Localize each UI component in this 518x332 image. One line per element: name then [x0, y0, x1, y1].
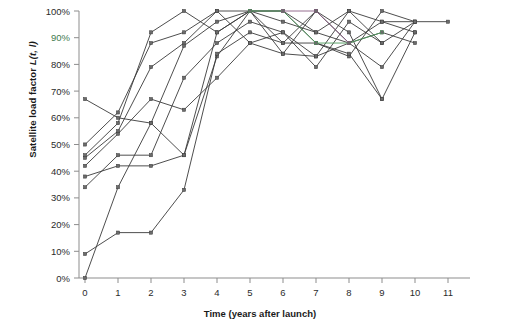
x-axis-tick-label: 2	[148, 287, 153, 298]
x-axis-tick-label: 3	[181, 287, 186, 298]
series-marker	[83, 276, 86, 279]
series-marker	[215, 41, 218, 44]
series-marker	[281, 20, 284, 23]
series-marker	[347, 31, 350, 34]
y-axis-title-symbol: L(t, l)	[27, 41, 38, 65]
series-marker	[83, 186, 86, 189]
series-marker	[281, 9, 284, 12]
series-marker	[413, 41, 416, 44]
x-axis-tick-label: 6	[280, 287, 285, 298]
series-marker	[182, 76, 185, 79]
series-line	[85, 22, 415, 188]
series-marker	[413, 20, 416, 23]
series-marker	[83, 164, 86, 167]
y-axis-tick-label: 10%	[51, 246, 71, 257]
series-marker	[83, 98, 86, 101]
series-marker	[116, 132, 119, 135]
x-axis-tick-label: 1	[115, 287, 120, 298]
series-marker	[116, 186, 119, 189]
series-marker	[182, 188, 185, 191]
series-marker	[380, 98, 383, 101]
series-marker	[380, 20, 383, 23]
x-axis-title: Time (years after launch)	[140, 308, 380, 319]
chart-container: 0%10%20%30%40%50%60%70%80%90%100% 012345…	[0, 0, 518, 332]
x-axis-tick-label: 0	[82, 287, 87, 298]
series-marker	[149, 231, 152, 234]
data-series	[83, 20, 416, 189]
y-axis: 0%10%20%30%40%50%60%70%80%90%100%	[46, 6, 79, 284]
series-marker	[149, 122, 152, 125]
series-marker	[314, 41, 317, 44]
series-marker	[116, 231, 119, 234]
x-axis-tick-label: 11	[443, 287, 453, 298]
data-series	[83, 9, 383, 255]
series-marker	[182, 108, 185, 111]
series-marker	[446, 20, 449, 23]
x-axis-tick-label: 4	[214, 287, 219, 298]
y-axis-tick-label: 100%	[46, 6, 71, 17]
series-marker	[281, 52, 284, 55]
series-marker	[83, 252, 86, 255]
series-marker	[149, 154, 152, 157]
y-axis-tick-label: 30%	[51, 192, 71, 203]
x-axis-tick-label: 7	[313, 287, 318, 298]
x-axis-tick-label: 9	[379, 287, 384, 298]
x-axis: 01234567891011	[79, 278, 470, 298]
series-marker	[248, 9, 251, 12]
series-marker	[182, 9, 185, 12]
series-marker	[215, 31, 218, 34]
series-marker	[248, 20, 251, 23]
series-marker	[380, 41, 383, 44]
series-marker	[149, 65, 152, 68]
series-marker	[248, 41, 251, 44]
data-series	[83, 31, 416, 168]
x-axis-tick-label: 10	[410, 287, 421, 298]
line-chart-plot: 0%10%20%30%40%50%60%70%80%90%100% 012345…	[0, 0, 518, 332]
series-marker	[281, 31, 284, 34]
series-marker	[116, 111, 119, 114]
series-marker	[314, 65, 317, 68]
series-marker	[314, 55, 317, 58]
series-line	[85, 11, 415, 177]
y-axis-tick-label: 40%	[51, 166, 71, 177]
data-series-group	[83, 9, 449, 279]
series-marker	[215, 20, 218, 23]
series-marker	[380, 31, 383, 34]
y-axis-title: Satellite load factor L(t, l)	[27, 0, 38, 200]
data-series	[83, 9, 416, 178]
series-marker	[413, 31, 416, 34]
series-marker	[182, 154, 185, 157]
y-axis-tick-label: 90%	[51, 32, 71, 43]
series-marker	[347, 41, 350, 44]
series-marker	[281, 41, 284, 44]
y-axis-tick-label: 50%	[51, 139, 71, 150]
series-marker	[182, 44, 185, 47]
y-axis-tick-label: 70%	[51, 86, 71, 97]
series-marker	[347, 20, 350, 23]
series-line	[283, 11, 349, 43]
series-marker	[83, 175, 86, 178]
y-axis-tick-label: 60%	[51, 112, 71, 123]
series-marker	[380, 65, 383, 68]
series-marker	[215, 76, 218, 79]
series-marker	[314, 31, 317, 34]
series-marker	[215, 9, 218, 12]
series-marker	[116, 116, 119, 119]
series-marker	[149, 164, 152, 167]
data-series	[83, 9, 449, 156]
series-marker	[116, 154, 119, 157]
y-axis-title-text: Satellite load factor	[27, 65, 38, 157]
x-axis-tick-label: 5	[247, 287, 252, 298]
series-marker	[116, 122, 119, 125]
series-marker	[149, 98, 152, 101]
series-marker	[149, 31, 152, 34]
series-marker	[83, 143, 86, 146]
series-marker	[380, 9, 383, 12]
series-marker	[248, 31, 251, 34]
series-line	[85, 11, 382, 278]
y-axis-tick-label: 80%	[51, 59, 71, 70]
y-axis-tick-label: 20%	[51, 219, 71, 230]
series-marker	[314, 9, 317, 12]
series-marker	[116, 164, 119, 167]
data-series	[248, 9, 383, 44]
